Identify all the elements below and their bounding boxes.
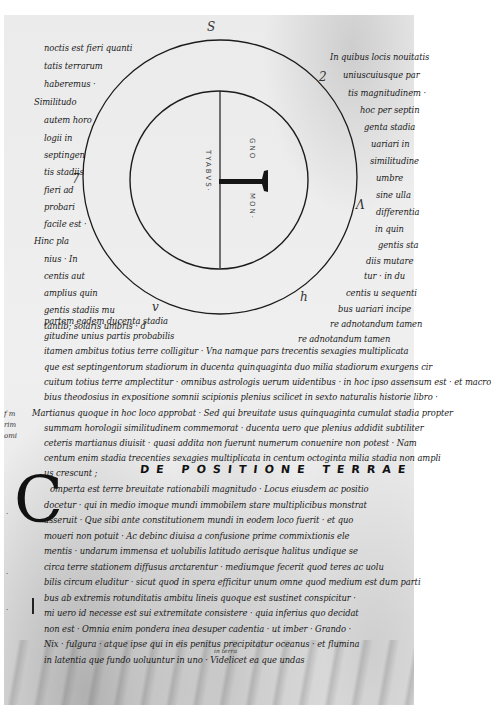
diagram-label-right-upper: GNO — [248, 138, 256, 160]
text-line: docetur · qui in medio imoque mundi immo… — [44, 500, 367, 510]
left-column-line: noctis est fieri quanti — [44, 43, 132, 53]
left-column-line: amplius quin — [44, 288, 98, 298]
text-line: circa terre stationem diffusus arctarent… — [44, 562, 384, 572]
right-column-line: in quin — [375, 224, 404, 234]
text-line: que est septingentorum stadiorum in duce… — [44, 362, 432, 372]
interlinear-gloss: in terra — [214, 647, 237, 654]
quadrant-mark-lower-left: v — [152, 300, 159, 314]
text-line: Martianus quoque in hoc loco approbat · … — [32, 408, 453, 418]
text-line: bius theodosius in expositione somnii sc… — [44, 392, 438, 402]
left-column-line: facile est · — [44, 219, 87, 229]
text-line: Nix · fulgura · atque ipse qui in eis pe… — [44, 639, 359, 649]
left-column-line: haberemus · — [44, 79, 96, 89]
diagram-label-left: TYABVS· — [204, 150, 212, 193]
margin-gloss: · — [6, 510, 8, 518]
t-bar-gnomon — [219, 170, 268, 192]
text-line: partem eadem ducenta stadia — [44, 316, 168, 326]
right-column-line: similitudine — [370, 156, 419, 166]
text-line: moueri non potuit · Ac debinc diuisa a c… — [44, 531, 349, 541]
text-line: re adnotandum tamen — [298, 334, 390, 344]
quadrant-mark-right: Λ — [356, 198, 365, 212]
margin-gloss: omi — [4, 432, 17, 440]
text-line: centum enim stadia trecenties sexagies m… — [44, 453, 441, 463]
text-line: summam horologii similitudinem commemora… — [44, 423, 424, 433]
right-column-line: differentia — [376, 207, 420, 217]
quadrant-mark-upper-right: 2 — [319, 70, 327, 84]
right-column-line: diis mutare — [366, 256, 413, 266]
left-column-line: tis stadiis — [44, 167, 84, 177]
text-line: asseruit · Que sibi ante constitutionem … — [44, 515, 353, 525]
margin-stroke — [32, 598, 34, 614]
right-column-line: sine ulla — [376, 190, 411, 200]
right-column-line: bus uariari incipe — [338, 304, 411, 314]
right-column-line: centis u sequenti — [346, 288, 417, 298]
left-column-line: tatis terrarum — [44, 61, 103, 71]
text-line: non est · Omnia enim pondera inea desupe… — [44, 624, 351, 634]
left-column-line: Hinc pla — [34, 236, 69, 246]
text-line: in latentia que fundo uoluuntur in uno ·… — [44, 655, 304, 665]
diagram-label-right-lower: MON· — [248, 193, 256, 220]
margin-gloss: · — [6, 606, 8, 614]
left-column-line: gentis stadiis mu — [44, 305, 115, 315]
text-line: omperta est terre breuitate rationabili … — [50, 484, 368, 494]
left-column-line: logii in — [44, 133, 72, 143]
text-line: bus ab extremis rotunditatis ambitu line… — [44, 593, 356, 603]
left-column-line: nius · In — [44, 254, 78, 264]
right-column-line: gentis sta — [378, 240, 418, 250]
right-column-line: genta stadia — [364, 122, 415, 132]
text-line: mentis · undarum immensa et uolubilis la… — [44, 546, 358, 556]
text-line: gitudine unius partis probabilis — [44, 331, 174, 341]
left-column-line: Similitudo — [34, 97, 77, 107]
left-column-line: fieri ad — [44, 185, 74, 195]
margin-gloss: rim — [4, 421, 16, 429]
right-column-line: umbre — [376, 173, 403, 183]
right-column-line: re adnotandum tamen — [330, 319, 422, 329]
left-column-line: septingen — [44, 150, 85, 160]
left-column-line: probari — [44, 202, 75, 212]
text-line: itamen ambitus totius terre colligitur ·… — [44, 346, 408, 356]
section-heading: DE POSITIONE TERRAE — [139, 463, 413, 476]
margin-gloss: · — [6, 570, 8, 578]
left-column-line: autem horo — [44, 115, 92, 125]
text-line: ceteris martianus diuisit · quasi addita… — [44, 438, 417, 448]
right-column-line: uariari in — [371, 139, 409, 149]
right-column-line: tur · in du — [364, 271, 405, 281]
right-column-line: tis magnitudinem · — [348, 88, 426, 98]
right-column-line: uniuscuiusque par — [343, 70, 420, 80]
text-line: cuitum totius terre amplectitur · omnibu… — [44, 377, 491, 387]
quadrant-mark-top: S — [207, 20, 215, 34]
right-column-line: hoc per septin — [360, 105, 419, 115]
left-column-line: centis aut — [44, 271, 85, 281]
quadrant-mark-lower-right: h — [300, 290, 308, 304]
text-line: mi uero id necesse est sui extremitate c… — [44, 608, 359, 618]
text-line: bilis circum eluditur · sicut quod in sp… — [44, 577, 420, 587]
right-column-line: In quibus locis nouitatis — [330, 52, 429, 62]
margin-gloss: f m — [4, 410, 15, 418]
